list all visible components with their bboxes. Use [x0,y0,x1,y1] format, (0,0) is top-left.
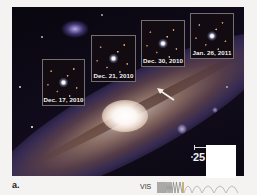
vis-label: VIS [140,183,151,190]
inset-date-label: Jan. 26, 2011 [191,49,233,56]
scale-bar-label: 25 [193,151,205,163]
nova-inset-2: Dec. 21, 2010 [91,35,136,82]
nova-inset-1: Dec. 17, 2010 [42,59,85,106]
inset-date-label: Dec. 30, 2010 [142,57,184,64]
panel-label: a. [12,180,20,190]
nova-inset-3: Dec. 30, 2010 [141,20,185,67]
nova-inset-4: Jan. 26, 2011 [190,13,234,59]
wave-spectrum-icon [157,181,247,193]
white-overlay-block [206,145,236,178]
inset-date-label: Dec. 17, 2010 [43,96,84,103]
inset-date-label: Dec. 21, 2010 [92,72,135,79]
arrow-pointing-up-left-icon [156,87,176,101]
